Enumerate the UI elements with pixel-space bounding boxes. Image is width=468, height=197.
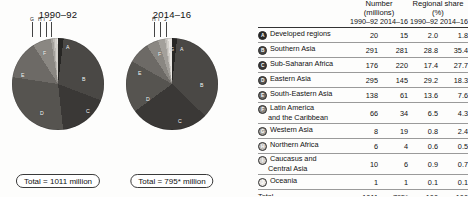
legend-marker-c-icon: C [258,61,267,70]
leader-line-j2 [166,22,167,37]
table-cell-share-2014: 2.4 [438,124,468,139]
pie2-slice-label-c: C [178,118,182,124]
legend-marker-e-icon: E [258,91,267,100]
table-cell-number-1990: 291 [350,43,378,58]
table-cell-number-2014: 281 [378,43,408,58]
table-cell-number-2014: 220 [378,58,408,73]
table-row[interactable]: ADeveloped regions20152.01.8 [258,28,468,43]
table-row[interactable]: ICaucasus andCentral Asia1060.90.7 [258,154,468,175]
pie2-slice-label-f: F [158,51,161,57]
pie-slice-label-e: E [21,72,24,78]
table-row[interactable]: HNorthern Africa640.60.5 [258,139,468,154]
table-cell-share-1990: 0.6 [408,139,438,154]
table-cell-region: CSub-Saharan Africa [258,58,350,73]
pie2-slice-label-e: E [138,70,141,76]
table-row[interactable]: FLatin Americaand the Caribbean66346.54.… [258,103,468,124]
region-name: South-Eastern Asia [270,90,332,98]
table-cell-share-2014: 1.8 [438,28,468,43]
subheader-share-1990: 1990–92 [408,17,438,26]
table-cell-share-1990: 29.2 [408,73,438,88]
legend-marker-a-icon: A [258,31,267,40]
table-cell-region: JOceania [258,175,350,190]
region-name: Eastern Asia [270,75,311,83]
pie2-slice-label-b: B [200,82,203,88]
table-cell-share-2014: 0.5 [438,139,468,154]
region-name: Sub-Saharan Africa [270,60,333,68]
region-name: Western Asia [270,126,313,134]
table-total-number-2014: 795* [378,190,408,197]
header-group-number-line2: (millions) [350,9,408,18]
table-row[interactable]: JOceania110.10.1 [258,175,468,190]
leader-line-g [32,22,33,37]
table-head: Number (millions) Regional share (%) 199… [258,0,468,28]
table-row[interactable]: ESouth-Eastern Asia1386113.67.6 [258,88,468,103]
table-row[interactable]: GWestern Asia8190.82.4 [258,124,468,139]
table-cell-number-1990: 295 [350,73,378,88]
table-cell-number-1990: 20 [350,28,378,43]
region-name-line2: Central Asia [258,165,350,173]
legend-marker-h-icon: H [258,142,267,151]
table-cell-number-2014: 6 [378,154,408,175]
table-cell-share-2014: 0.7 [438,154,468,175]
table-cell-share-2014: 4.3 [438,103,468,124]
table-row[interactable]: CSub-Saharan Africa17622017.427.7 [258,58,468,73]
figure-root: 1990–92 G H I J A E F D C B [0,0,468,196]
region-name-line2: and the Caribbean [258,114,350,122]
pie-slice-label-b: B [82,76,85,82]
table-cell-share-1990: 0.1 [408,175,438,190]
pie-slice-label-c: C [86,108,90,114]
pie-chart-2014-16-leader-labels: H I J [126,16,218,38]
region-name: Southern Asia [270,45,315,53]
data-table-panel: Number (millions) Regional share (%) 199… [258,0,468,196]
header-group-share-line2: (%) [408,9,468,18]
leader-line-i2 [160,22,161,37]
table-cell-number-1990: 176 [350,58,378,73]
table-subheader-row: 1990–92 2014–16 1990–92 2014–16 [258,17,468,26]
table-cell-number-2014: 145 [378,73,408,88]
table-total-row: Total1011795*100100 [258,190,468,197]
pie-chart-1990-92-leader-labels: G H I J [12,16,104,38]
table-body: ADeveloped regions20152.01.8BSouthern As… [258,28,468,197]
pie-2014-16[interactable]: A E F G D C B [126,38,218,130]
leader-line-h2 [154,22,155,37]
pie-slice-label-f: F [43,50,46,56]
table-header-group-row: Number (millions) Regional share (%) [258,0,468,17]
region-name: Latin America [270,104,314,112]
region-name: Oceania [270,177,297,185]
header-group-share: Regional share (%) [408,0,468,17]
table-cell-share-1990: 2.0 [408,28,438,43]
table-row[interactable]: BSouthern Asia29128128.835.4 [258,43,468,58]
table-cell-region: ADeveloped regions [258,28,350,43]
table-cell-region: ESouth-Eastern Asia [258,88,350,103]
leader-line-i [46,22,47,37]
pie-charts-panel: 1990–92 G H I J A E F D C B [0,0,232,196]
pie-1990-92[interactable]: A E F D C B [12,38,104,130]
table-cell-share-2014: 18.3 [438,73,468,88]
table-total-label: Total [258,190,350,197]
table-cell-region: BSouthern Asia [258,43,350,58]
table-cell-number-1990: 10 [350,154,378,175]
table-cell-share-2014: 0.1 [438,175,468,190]
pie-slice-label-d: D [40,110,44,116]
regional-share-table: Number (millions) Regional share (%) 199… [258,0,468,196]
legend-marker-b-icon: B [258,46,267,55]
pie-1990-92-wrap: A E F D C B [12,38,104,130]
table-cell-number-1990: 1 [350,175,378,190]
pie-slice-label-a: A [66,44,69,50]
legend-marker-f-icon: F [258,105,267,114]
table-cell-region: HNorthern Africa [258,139,350,154]
table-cell-share-2014: 7.6 [438,88,468,103]
table-cell-share-1990: 0.8 [408,124,438,139]
region-name: Developed regions [270,30,331,38]
pie2-slice-label-g: G [170,46,174,52]
table-cell-number-1990: 8 [350,124,378,139]
table-cell-share-1990: 17.4 [408,58,438,73]
table-total-share-2014: 100 [438,190,468,197]
table-cell-number-2014: 15 [378,28,408,43]
region-name: Caucasus and [270,155,317,163]
table-row[interactable]: DEastern Asia29514529.218.3 [258,73,468,88]
table-cell-number-2014: 61 [378,88,408,103]
leader-line-h [40,22,41,37]
table-cell-share-2014: 35.4 [438,43,468,58]
subheader-number-2014: 2014–16 [378,17,408,26]
